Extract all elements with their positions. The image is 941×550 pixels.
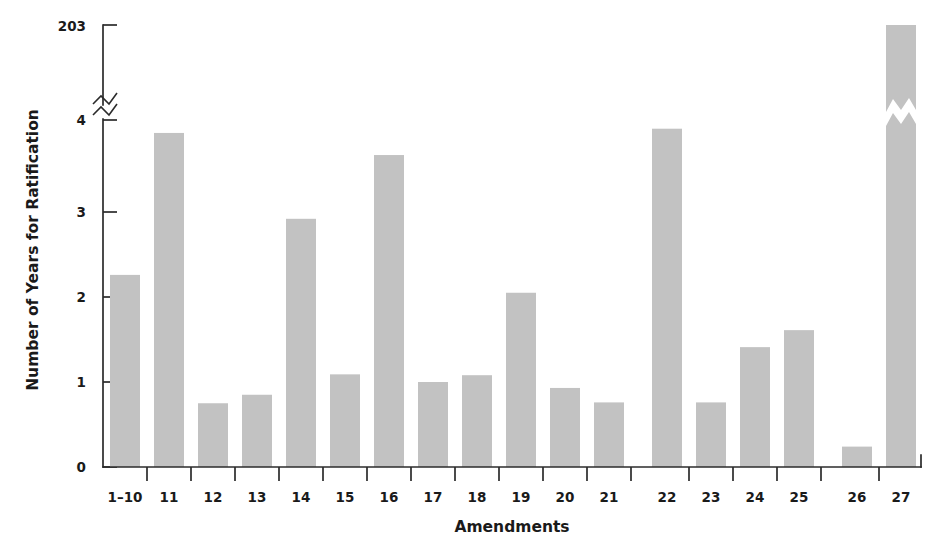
x-axis-title: Amendments [454,518,569,536]
y-tick-label-2: 2 [77,289,86,305]
bar-1-10 [110,275,140,467]
bar-18 [462,375,492,467]
bar-16 [374,155,404,467]
y-tick-label-4: 4 [77,112,86,128]
chart-svg: Number of Years for Ratification 0 1 2 3… [0,0,941,550]
bar-11 [154,133,184,467]
x-tick-label-23: 23 [702,489,721,505]
x-tick-label-26: 26 [848,489,867,505]
x-tick-label-12: 12 [204,489,223,505]
bar-24 [740,347,770,467]
bar-22 [652,129,682,467]
x-tick-label-17: 17 [424,489,443,505]
y-tick-label-203: 203 [58,18,86,34]
x-tick-label-15: 15 [336,489,355,505]
x-tick-label-14: 14 [292,489,311,505]
x-tick-label-27: 27 [892,489,911,505]
bar-17 [418,382,448,467]
bar-chart-figure: Number of Years for Ratification 0 1 2 3… [0,0,941,550]
y-tick-label-1: 1 [77,374,86,390]
x-tick-label-1-10: 1–10 [108,489,143,505]
bar-25 [784,330,814,467]
bar-20 [550,388,580,467]
bar-13 [242,395,272,467]
bar-23 [696,402,726,467]
bar-26 [842,447,872,467]
x-tick-label-11: 11 [160,489,179,505]
x-tick-label-19: 19 [512,489,531,505]
x-tick-marks [147,467,879,481]
y-tick-label-3: 3 [77,204,86,220]
x-tick-label-18: 18 [468,489,487,505]
y-axis-break-zigzag-lower [93,104,117,115]
bar-14 [286,219,316,467]
bar-27 [886,25,916,467]
y-tick-label-0: 0 [77,459,86,475]
x-tick-label-21: 21 [600,489,619,505]
bar-21 [594,402,624,467]
x-tick-label-24: 24 [746,489,765,505]
bar-19 [506,293,536,467]
x-tick-label-16: 16 [380,489,399,505]
y-axis-break-zigzag-upper [93,93,117,104]
x-tick-label-13: 13 [248,489,267,505]
bar-15 [330,374,360,467]
x-tick-label-25: 25 [790,489,809,505]
x-tick-labels: 1–10 11 12 13 14 15 16 17 18 19 20 21 22… [108,489,911,505]
x-tick-label-20: 20 [556,489,575,505]
bars-group [110,25,916,467]
bar-12 [198,403,228,467]
y-axis-title: Number of Years for Ratification [24,109,42,391]
x-tick-label-22: 22 [658,489,677,505]
